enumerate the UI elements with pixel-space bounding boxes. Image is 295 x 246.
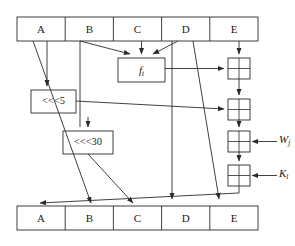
edge-rot30-to-bottom-c — [88, 154, 133, 203]
top-register-bar: A B C D E — [17, 17, 258, 41]
rotate-left-30-group: <<<30 — [63, 131, 113, 154]
function-box-group: ft — [118, 58, 165, 82]
top-cell-label-e: E — [231, 23, 238, 35]
bottom-cell-label-a: A — [37, 212, 45, 224]
top-cell-label-d: D — [182, 23, 190, 35]
top-cell-label-a: A — [37, 23, 45, 35]
edge-rot5-to-xor2 — [76, 101, 224, 109]
bottom-cell-label-b: B — [86, 212, 93, 224]
bottom-cell-label-e: E — [231, 212, 238, 224]
edge-b-to-fn — [80, 41, 130, 54]
xor-4 — [228, 165, 250, 186]
rotate-left-30-label: <<<30 — [74, 136, 102, 147]
word-input-label: Wj — [279, 133, 290, 147]
diagram-canvas: A B C D E ft <<<5 <<<30 — [0, 0, 295, 246]
top-cell-label-c: C — [134, 23, 141, 35]
bottom-cell-label-c: C — [134, 212, 141, 224]
xor-2 — [228, 99, 250, 120]
edge-xor4-to-bottom-a — [40, 193, 239, 203]
constant-input-group: Kt — [252, 167, 289, 181]
sha1-round-diagram: A B C D E ft <<<5 <<<30 — [0, 0, 295, 246]
bottom-register-bar: A B C D E — [17, 206, 258, 230]
edge-a-to-bottom-b — [33, 41, 91, 203]
top-cell-label-b: B — [86, 23, 93, 35]
bottom-cell-label-d: D — [182, 212, 190, 224]
word-input-group: Wj — [252, 133, 290, 147]
xor-3 — [228, 131, 250, 152]
rotate-left-5-group: <<<5 — [31, 90, 76, 113]
edge-d-to-fn — [153, 41, 178, 54]
edge-d-to-bottom-e — [193, 41, 219, 199]
constant-input-label: Kt — [278, 167, 289, 181]
xor-1 — [228, 58, 250, 79]
